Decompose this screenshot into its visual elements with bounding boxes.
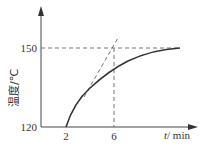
x-axis-label-unit: / min — [167, 129, 190, 141]
temperature-time-chart: 150 120 2 6 温度/℃ t/ min — [0, 0, 209, 152]
y-tick-150: 150 — [21, 42, 38, 54]
y-axis-label: 温度/℃ — [7, 69, 21, 107]
x-tick-2: 2 — [63, 130, 69, 142]
x-tick-6: 6 — [111, 130, 117, 142]
x-axis-label: t/ min — [164, 129, 190, 141]
y-tick-120: 120 — [21, 121, 38, 133]
temperature-curve — [66, 48, 180, 127]
y-axis-arrow-icon — [38, 6, 44, 16]
